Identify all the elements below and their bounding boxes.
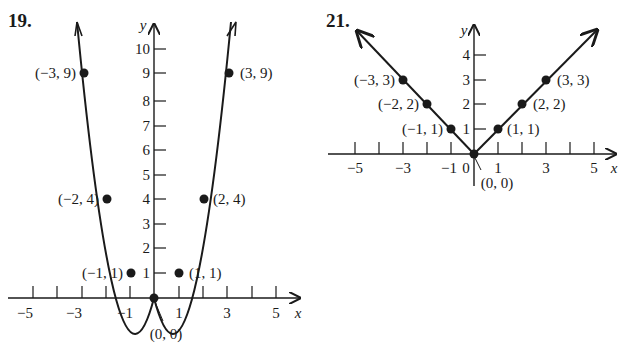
y-ticks bbox=[154, 49, 166, 273]
y-tick-label: 6 bbox=[143, 142, 151, 158]
point-label: (−1, 1) bbox=[82, 265, 123, 282]
y-tick-label: 3 bbox=[143, 216, 151, 232]
point-label: (0, 0) bbox=[150, 326, 183, 343]
x-tick-label: −5 bbox=[17, 305, 33, 321]
y-tick-label: 3 bbox=[463, 72, 471, 88]
point-label: (0, 0) bbox=[481, 175, 514, 192]
y-tick-label: 7 bbox=[143, 118, 151, 134]
y-axis-label: y bbox=[138, 17, 147, 33]
y-tick-label: 1 bbox=[463, 121, 471, 137]
point-label: (2, 4) bbox=[213, 191, 246, 208]
origin-leader-line bbox=[155, 302, 163, 321]
y-tick-label: 4 bbox=[143, 191, 151, 207]
y-tick-label: 9 bbox=[143, 65, 151, 81]
parabola-right bbox=[154, 22, 231, 334]
x-tick-label: −5 bbox=[347, 160, 363, 176]
y-ticks bbox=[474, 55, 486, 129]
problem-number-21: 21. bbox=[326, 10, 350, 31]
x-tick-label: 1 bbox=[175, 305, 183, 321]
graph-19: 19. bbox=[8, 10, 302, 343]
point-label: (1, 1) bbox=[189, 265, 222, 282]
y-tick-label: 1 bbox=[143, 265, 151, 281]
problem-number-19: 19. bbox=[8, 10, 32, 31]
point-label: (1, 1) bbox=[507, 121, 540, 138]
x-tick-label: 3 bbox=[542, 160, 550, 176]
y-tick-label: 5 bbox=[143, 167, 151, 183]
point-label: (−2, 2) bbox=[378, 96, 419, 113]
point-label: (3, 9) bbox=[240, 65, 273, 82]
y-tick-label: 8 bbox=[143, 93, 151, 109]
x-tick-label: 0 bbox=[462, 160, 470, 176]
x-tick-label: −3 bbox=[66, 305, 82, 321]
x-tick-label: 5 bbox=[590, 160, 598, 176]
y-tick-label: 2 bbox=[463, 96, 471, 112]
x-tick-label: −3 bbox=[395, 160, 411, 176]
x-tick-label: 5 bbox=[272, 305, 280, 321]
y-tick-label: 2 bbox=[143, 240, 151, 256]
x-tick-label: 3 bbox=[223, 305, 231, 321]
origin-leader-line bbox=[475, 158, 481, 170]
y-tick-label: 10 bbox=[135, 41, 150, 57]
point-label: (−2, 4) bbox=[58, 191, 99, 208]
point-label: (−3, 3) bbox=[354, 72, 395, 89]
graph-21: 21. −5 −3 −1 0 1 3 bbox=[326, 10, 618, 192]
x-tick-label: 1 bbox=[494, 160, 502, 176]
x-tick-label: −1 bbox=[441, 160, 457, 176]
point-label: (2, 2) bbox=[533, 96, 566, 113]
y-axis-label: y bbox=[459, 22, 468, 38]
x-axis-label: x bbox=[294, 305, 302, 321]
point-label: (−3, 9) bbox=[35, 65, 76, 82]
x-axis-label: x bbox=[610, 160, 618, 176]
figure-canvas: 19. bbox=[0, 0, 621, 351]
y-tick-label: 4 bbox=[463, 47, 471, 63]
point-label: (−1, 1) bbox=[402, 121, 443, 138]
point-label: (3, 3) bbox=[557, 72, 590, 89]
